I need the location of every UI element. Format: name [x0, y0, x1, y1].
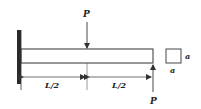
beam-diagram: P P L/2 L/2 a a: [0, 0, 201, 109]
dimension-label-right: L/2: [111, 80, 127, 90]
cross-section-width-label: a: [170, 65, 175, 75]
load-label-end: P: [149, 96, 157, 106]
beam: [21, 49, 153, 63]
fixed-support: [17, 30, 21, 90]
cross-section-square: [166, 49, 181, 63]
load-label-mid: P: [82, 9, 90, 19]
cross-section-height-label: a: [185, 51, 190, 61]
dimension-label-left: L/2: [44, 80, 60, 90]
